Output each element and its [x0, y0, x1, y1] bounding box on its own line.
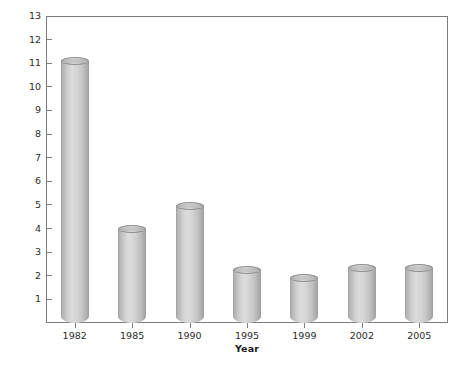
y-tick-mark	[46, 204, 52, 205]
bar-1995	[233, 270, 261, 323]
bar-1985	[118, 229, 146, 323]
y-tick-9: 9	[0, 104, 52, 116]
x-tick-label: 1995	[220, 330, 274, 341]
y-tick-mark	[46, 110, 52, 111]
y-tick-label: 12	[29, 34, 41, 46]
y-tick-label: 1	[35, 293, 41, 305]
y-tick-mark	[46, 39, 52, 40]
bar-top-shade	[291, 276, 317, 280]
y-tick-mark	[46, 181, 52, 182]
y-tick-label: 4	[35, 223, 41, 235]
bar-top-shade	[177, 204, 203, 208]
y-tick-6: 6	[0, 175, 52, 187]
x-tick-label: 1990	[163, 330, 217, 341]
x-tick-mark	[75, 323, 76, 328]
y-tick-mark	[46, 228, 52, 229]
y-tick-mark	[46, 16, 52, 17]
y-tick-13: 13	[0, 10, 52, 22]
bar-body	[233, 270, 261, 323]
y-tick-mark	[46, 252, 52, 253]
y-tick-11: 11	[0, 57, 52, 69]
y-tick-label: 10	[29, 81, 41, 93]
cpi-bar-chart: Percent Increase in Consumer Price Index…	[0, 0, 460, 367]
bar-top-ellipse	[61, 57, 89, 65]
y-tick-label: 11	[29, 57, 41, 69]
y-tick-3: 3	[0, 246, 52, 258]
bar-top-shade	[234, 268, 260, 272]
y-tick-mark	[46, 275, 52, 276]
bar-1990	[176, 206, 204, 323]
y-tick-8: 8	[0, 128, 52, 140]
bar-top-ellipse	[176, 202, 204, 210]
x-axis-title: Year	[46, 343, 448, 354]
x-tick-label: 1985	[105, 330, 159, 341]
y-tick-label: 8	[35, 128, 41, 140]
x-tick-label: 1982	[48, 330, 102, 341]
bar-top-shade	[119, 227, 145, 231]
x-tick-mark	[362, 323, 363, 328]
y-tick-label: 2	[35, 270, 41, 282]
bar-body	[176, 206, 204, 323]
bar-body	[405, 268, 433, 323]
y-tick-mark	[46, 63, 52, 64]
bar-body	[118, 229, 146, 323]
y-tick-label: 5	[35, 199, 41, 211]
x-tick-mark	[190, 323, 191, 328]
x-tick-label: 2005	[392, 330, 446, 341]
bar-top-ellipse	[348, 264, 376, 272]
bar-top-ellipse	[233, 266, 261, 274]
y-tick-label: 6	[35, 175, 41, 187]
bar-top-shade	[349, 266, 375, 270]
y-tick-mark	[46, 134, 52, 135]
y-tick-label: 13	[29, 10, 41, 22]
y-tick-label: 3	[35, 246, 41, 258]
x-tick-label: 1999	[277, 330, 331, 341]
y-tick-mark	[46, 86, 52, 87]
y-tick-1: 1	[0, 293, 52, 305]
y-tick-2: 2	[0, 270, 52, 282]
bar-2005	[405, 268, 433, 323]
y-tick-mark	[46, 157, 52, 158]
y-tick-label: 9	[35, 104, 41, 116]
y-tick-label: 7	[35, 152, 41, 164]
x-tick-mark	[132, 323, 133, 328]
bar-top-ellipse	[405, 264, 433, 272]
bar-body	[61, 61, 89, 323]
bar-top-ellipse	[118, 225, 146, 233]
x-tick-mark	[247, 323, 248, 328]
y-tick-4: 4	[0, 223, 52, 235]
bar-top-shade	[62, 59, 88, 63]
bar-2002	[348, 268, 376, 323]
y-tick-5: 5	[0, 199, 52, 211]
x-tick-mark	[304, 323, 305, 328]
y-tick-10: 10	[0, 81, 52, 93]
bar-top-shade	[406, 266, 432, 270]
y-tick-12: 12	[0, 34, 52, 46]
x-tick-mark	[419, 323, 420, 328]
bar-body	[348, 268, 376, 323]
x-tick-label: 2002	[335, 330, 389, 341]
y-tick-7: 7	[0, 152, 52, 164]
bar-1999	[290, 278, 318, 323]
bar-body	[290, 278, 318, 323]
y-tick-mark	[46, 299, 52, 300]
bar-1982	[61, 61, 89, 323]
